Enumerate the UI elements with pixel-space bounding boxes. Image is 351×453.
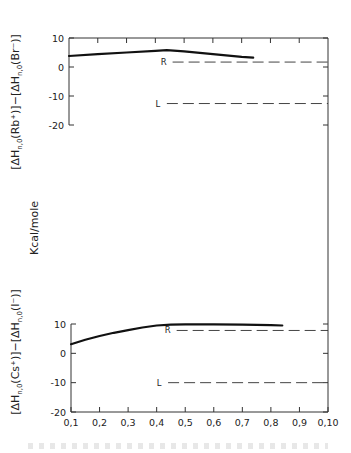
x-tick-label: 0,6 — [206, 417, 221, 428]
y-tick-label: -10 — [48, 91, 64, 102]
y-axis-title: [ΔHn,0(Rb⁺)]−[ΔHn,0(Br⁻)] — [9, 34, 24, 170]
y-axis-title-part: (Rb⁺)]−[ΔH — [9, 76, 22, 139]
y-tick-label: 0 — [58, 62, 64, 73]
y-axis-title-subscript: n,0 — [16, 311, 24, 322]
series-curve — [71, 324, 282, 344]
reference-label-r: R — [161, 57, 167, 67]
reference-label-l: L — [157, 378, 162, 388]
y-axis-title-subscript: n,0 — [16, 139, 24, 150]
x-tick-label: 0,10 — [317, 417, 338, 428]
x-tick-label: 0,7 — [235, 417, 250, 428]
reference-label-l: L — [155, 99, 160, 109]
y-tick-label: 10 — [52, 33, 64, 44]
y-tick-label: -20 — [50, 407, 66, 418]
x-tick-label: 0,1 — [63, 417, 78, 428]
y-axis-title-part: (Br⁻)] — [9, 34, 22, 65]
x-tick-label: 0,8 — [263, 417, 278, 428]
y-axis-title-subscript: n,0 — [16, 65, 24, 76]
y-tick-label: -20 — [48, 120, 64, 131]
y-tick-label: 10 — [54, 319, 66, 330]
y-axis-title-part: [ΔH — [9, 150, 22, 170]
y-axis-title: [ΔHn,0(Cs⁺)]−[ΔHn,0(I⁻)] — [9, 289, 24, 415]
x-tick-label: 0,5 — [178, 417, 193, 428]
x-tick-label: 0,9 — [292, 417, 307, 428]
x-tick-label: 0,3 — [121, 417, 136, 428]
y-axis-title-part: [ΔH — [9, 395, 22, 415]
x-tick-label: 0,2 — [92, 417, 107, 428]
reference-label-r: R — [165, 325, 171, 335]
y-axis-title-part: (I⁻)] — [9, 289, 22, 311]
x-tick-label: 0,4 — [149, 417, 164, 428]
y-axis-title-subscript: n,0 — [16, 384, 24, 395]
y-tick-label: 0 — [60, 348, 66, 359]
figure: 100-10-20RL[ΔHn,0(Rb⁺)]−[ΔHn,0(Br⁻)] 100… — [0, 0, 351, 453]
top-panel: 100-10-20RL[ΔHn,0(Rb⁺)]−[ΔHn,0(Br⁻)] — [9, 33, 328, 170]
y-axis-title-part: (Cs⁺)]−[ΔH — [9, 322, 22, 383]
caption-clipped — [28, 443, 328, 449]
bottom-panel: 100-10-200,10,20,30,40,50,60,70,80,90,10… — [9, 289, 339, 428]
y-tick-label: -10 — [50, 377, 66, 388]
units-label: Kcal/mole — [28, 201, 41, 255]
